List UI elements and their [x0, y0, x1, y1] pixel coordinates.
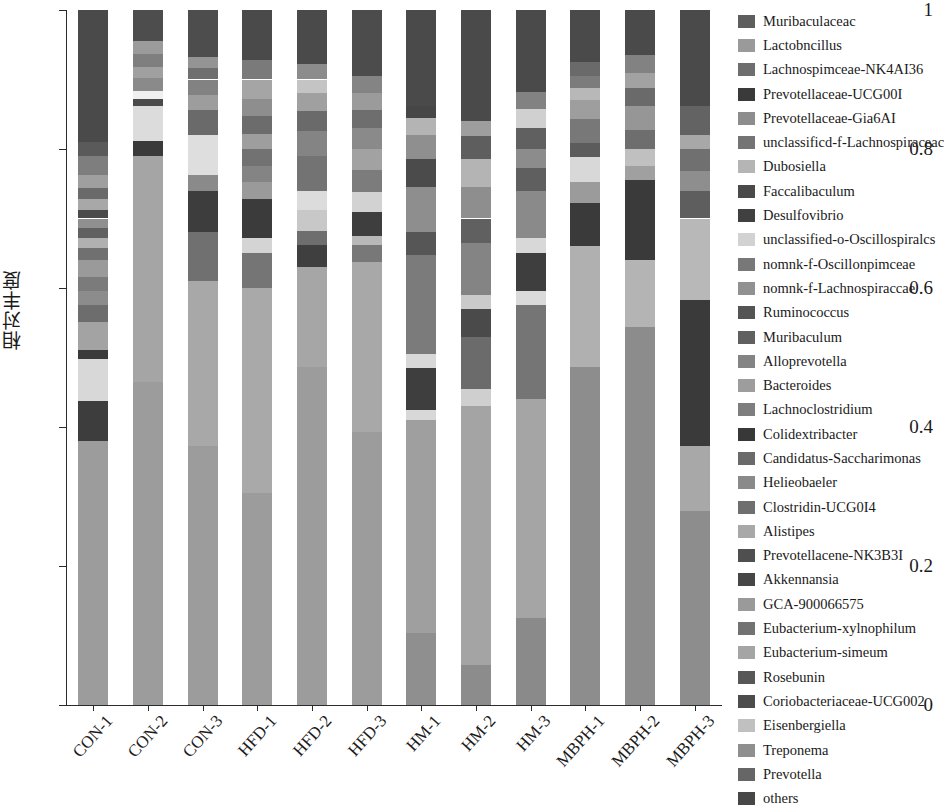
legend-color-swatch [738, 403, 755, 416]
bar-segment [406, 135, 436, 159]
legend-color-swatch [738, 768, 755, 781]
bar-segment [625, 73, 655, 88]
bar-segment [78, 350, 108, 359]
legend-label: Prevotellaceae-Gia6AI [763, 111, 896, 126]
x-axis-tick-label: MBPH-2 [608, 712, 663, 770]
legend-label: Eisenbergiella [763, 718, 846, 733]
legend-item[interactable]: Dubosiella [738, 155, 933, 179]
bar-segment [680, 149, 710, 171]
bar-segment [78, 219, 108, 229]
legend-item[interactable]: Desulfovibrio [738, 203, 933, 227]
legend-item[interactable]: Prevotellacene-NK3B3I [738, 544, 933, 568]
bar-segment [570, 76, 600, 88]
bar-segment [78, 359, 108, 401]
legend-item[interactable]: Coriobacteriaceae-UCG002 [738, 689, 933, 713]
legend-item[interactable]: GCA-900066575 [738, 592, 933, 616]
legend-item[interactable]: nomnk-f-Lachnospiraccae [738, 276, 933, 300]
legend-color-swatch [738, 112, 755, 125]
legend-item[interactable]: others [738, 787, 933, 809]
legend-item[interactable]: Clostridin-UCG0I4 [738, 495, 933, 519]
legend: MuribaculaceacLactobncillusLachnospimcea… [738, 9, 933, 809]
bar-segment [297, 367, 327, 705]
stacked-bar [625, 10, 655, 705]
legend-color-swatch [738, 379, 755, 392]
bar-segment [188, 110, 218, 135]
legend-label: Muribaculaceac [763, 14, 856, 29]
bar-segment [570, 246, 600, 366]
legend-label: nomnk-f-Lachnospiraccae [763, 281, 915, 296]
legend-item[interactable]: Ruminococcus [738, 301, 933, 325]
legend-color-swatch [738, 501, 755, 514]
legend-item[interactable]: Akkennansia [738, 568, 933, 592]
bar-segment [625, 130, 655, 149]
legend-color-swatch [738, 282, 755, 295]
legend-item[interactable]: Colidextribacter [738, 422, 933, 446]
legend-item[interactable]: Treponema [738, 738, 933, 762]
bar-segment [78, 175, 108, 188]
x-axis-tick-label: MBPH-3 [663, 712, 718, 770]
x-axis-tick-label: CON-2 [125, 712, 172, 761]
bar-segment [242, 238, 272, 253]
legend-item[interactable]: nomnk-f-Oscillonpimceae [738, 252, 933, 276]
bar-segment [78, 188, 108, 199]
stacked-bar [188, 10, 218, 705]
bar-segment [242, 166, 272, 182]
bar-segment [680, 10, 710, 106]
x-axis-tick-label: HFD-3 [344, 712, 390, 760]
bar-segment [516, 168, 546, 190]
bar-segment [680, 446, 710, 511]
legend-item[interactable]: unclassificd-f-Lachnospiraceac [738, 130, 933, 154]
legend-item[interactable]: Alistipes [738, 519, 933, 543]
legend-item[interactable]: Faccalibaculum [738, 179, 933, 203]
legend-color-swatch [738, 160, 755, 173]
legend-item[interactable]: Eisenbergiella [738, 714, 933, 738]
legend-label: Prevotella [763, 767, 822, 782]
bar-segment [625, 55, 655, 72]
legend-color-swatch [738, 476, 755, 489]
bar-segment [242, 10, 272, 60]
bar-segment [625, 180, 655, 260]
bar-segment [625, 88, 655, 106]
legend-item[interactable]: Prevotella [738, 762, 933, 786]
y-axis-title: 相对丰度 [2, 270, 36, 350]
bar-segment [570, 367, 600, 705]
bar-segment [78, 199, 108, 210]
bar-segment [461, 10, 491, 121]
legend-item[interactable]: Eubacterium-simeum [738, 641, 933, 665]
legend-item[interactable]: Muribaculaceac [738, 9, 933, 33]
legend-item[interactable]: Candidatus-Saccharimonas [738, 446, 933, 470]
legend-label: Treponema [763, 743, 829, 758]
x-axis-tick-label: CON-1 [70, 712, 117, 761]
bar-segment [625, 166, 655, 180]
x-axis-tick-mark [203, 705, 204, 711]
bar-segment [297, 131, 327, 156]
legend-item[interactable]: Alloprevotella [738, 349, 933, 373]
legend-item[interactable]: Rosebunin [738, 665, 933, 689]
legend-item[interactable]: Bacteroides [738, 373, 933, 397]
legend-color-swatch [738, 671, 755, 684]
legend-item[interactable]: Prevotellaceae-Gia6AI [738, 106, 933, 130]
legend-item[interactable]: unclassified-o-Oscillospiralcs [738, 228, 933, 252]
x-axis-tick-mark [640, 705, 641, 711]
bar-segment [516, 291, 546, 305]
legend-item[interactable]: Eubacterium-xylnophilum [738, 616, 933, 640]
legend-label: unclassificd-f-Lachnospiraceac [763, 135, 944, 150]
stacked-bar [570, 10, 600, 705]
stacked-bar [133, 10, 163, 705]
legend-label: Faccalibaculum [763, 184, 855, 199]
bar-segment [242, 99, 272, 116]
legend-color-swatch [738, 622, 755, 635]
bar-segment [78, 248, 108, 260]
legend-item[interactable]: Muribaculum [738, 325, 933, 349]
legend-item[interactable]: Prevotellaceae-UCG00I [738, 82, 933, 106]
bar-segment [461, 159, 491, 187]
legend-item[interactable]: Helieobaeler [738, 471, 933, 495]
legend-label: unclassified-o-Oscillospiralcs [763, 232, 935, 247]
bar-segment [133, 106, 163, 141]
legend-item[interactable]: Lactobncillus [738, 33, 933, 57]
legend-item[interactable]: Lachnospimceae-NK4AI36 [738, 58, 933, 82]
bar-segment [352, 149, 382, 170]
legend-color-swatch [738, 598, 755, 611]
bar-segment [78, 441, 108, 705]
legend-item[interactable]: Lachnoclostridium [738, 398, 933, 422]
